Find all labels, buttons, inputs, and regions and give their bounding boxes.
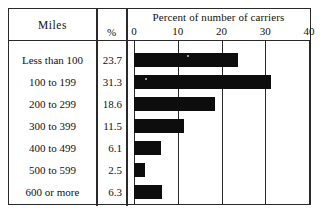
scan-artifact-1: [145, 78, 147, 80]
table-body: Less than 100100 to 199200 to 299300 to …: [9, 41, 310, 204]
chart-title: Percent of number of carriers: [127, 9, 310, 25]
plot-area: [127, 41, 310, 204]
bar-2: [134, 97, 215, 111]
row-value-5: 2.5: [97, 159, 122, 181]
chart-table-frame: Miles % Percent of number of carriers 0 …: [8, 8, 311, 205]
bar-5: [134, 163, 145, 177]
x-tick-label-2: 20: [216, 25, 227, 37]
table-header-row: Miles % Percent of number of carriers 0 …: [9, 9, 310, 41]
row-value-6: 6.3: [97, 181, 122, 203]
gridline-30: [265, 41, 266, 204]
row-value-4: 6.1: [97, 137, 122, 159]
x-tick-label-0: 0: [131, 25, 137, 37]
scan-artifact-0: [187, 55, 189, 57]
row-label-0: Less than 100: [9, 49, 96, 71]
row-value-3: 11.5: [97, 115, 122, 137]
row-label-2: 200 to 299: [9, 93, 96, 115]
column-header-percent: %: [97, 9, 126, 40]
row-label-4: 400 to 499: [9, 137, 96, 159]
category-label-column: Less than 100100 to 199200 to 299300 to …: [9, 41, 96, 204]
row-label-3: 300 to 399: [9, 115, 96, 137]
percent-value-column: 23.731.318.611.56.12.56.3: [97, 41, 126, 204]
row-value-1: 31.3: [97, 71, 122, 93]
x-tick-label-1: 10: [172, 25, 183, 37]
gridline-40: [309, 41, 310, 204]
bar-3: [134, 119, 184, 133]
row-value-0: 23.7: [97, 49, 122, 71]
bar-6: [134, 185, 162, 199]
bar-1: [134, 75, 271, 89]
bar-4: [134, 141, 161, 155]
column-header-miles: Miles: [9, 9, 96, 40]
row-label-6: 600 or more: [9, 181, 96, 203]
x-tick-label-3: 30: [260, 25, 271, 37]
x-axis-tick-labels: 0 10 20 30 40: [127, 24, 310, 41]
x-tick-label-4: 40: [304, 25, 315, 37]
row-label-5: 500 to 599: [9, 159, 96, 181]
row-value-2: 18.6: [97, 93, 122, 115]
bar-0: [134, 53, 238, 67]
row-label-1: 100 to 199: [9, 71, 96, 93]
